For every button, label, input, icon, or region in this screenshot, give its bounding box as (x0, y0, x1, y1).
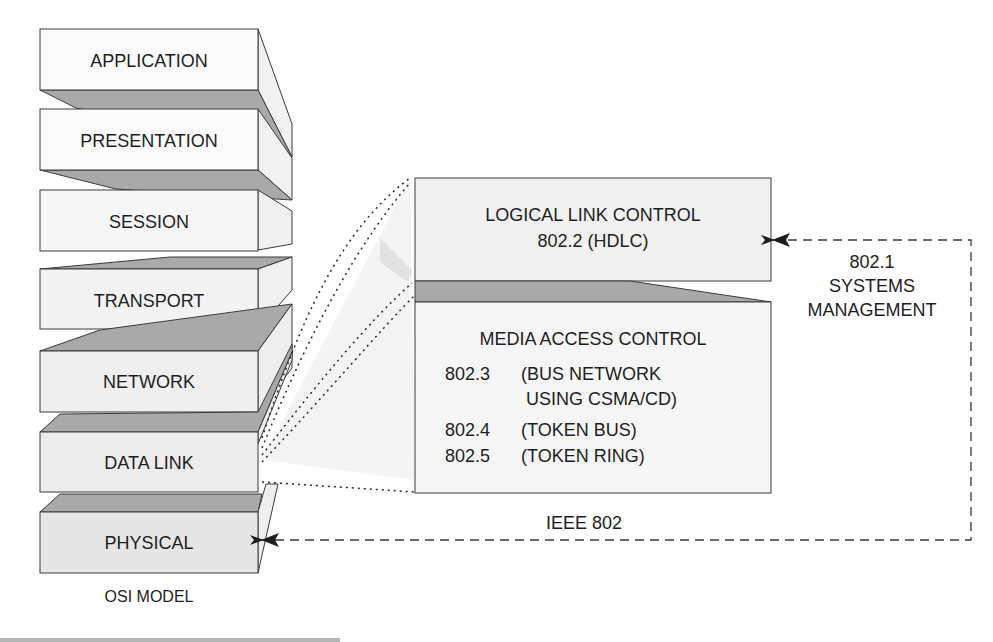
mac-entry-desc-8025: (TOKEN RING) (521, 446, 645, 466)
footer-bar (0, 638, 340, 642)
layer-label-application: APPLICATION (90, 51, 208, 71)
mac-entry-desc-8024: (TOKEN BUS) (521, 420, 637, 440)
systems-management-label: 802.1 SYSTEMS MANAGEMENT (807, 252, 936, 320)
mac-entry-desc-8023-line1: (BUS NETWORK (521, 364, 661, 384)
sysmgmt-line3: MANAGEMENT (807, 300, 936, 320)
layer-label-session: SESSION (109, 212, 189, 232)
sysmgmt-line1: 802.1 (849, 252, 894, 272)
osi-layer-physical[interactable] (40, 484, 278, 573)
sysmgmt-line2: SYSTEMS (829, 276, 915, 296)
mac-entry-code-8024: 802.4 (445, 420, 490, 440)
layer-label-network: NETWORK (103, 372, 195, 392)
mac-entry-desc-8023-line2: USING CSMA/CD) (526, 389, 677, 409)
ieee802-caption: IEEE 802 (546, 513, 622, 533)
mac-entry-code-8023: 802.3 (445, 364, 490, 384)
layer-label-data-link: DATA LINK (104, 453, 193, 473)
layer-label-transport: TRANSPORT (94, 291, 205, 311)
mac-entry-code-8025: 802.5 (445, 446, 490, 466)
llc-title: LOGICAL LINK CONTROL (485, 205, 700, 225)
layer-label-presentation: PRESENTATION (80, 131, 217, 151)
layer-label-physical: PHYSICAL (104, 533, 193, 553)
llc-subtitle: 802.2 (HDLC) (537, 231, 648, 251)
mac-title: MEDIA ACCESS CONTROL (479, 329, 706, 349)
osi-model-caption: OSI MODEL (105, 588, 194, 605)
arrow-left-icon-llc (772, 233, 790, 247)
osi-ieee802-diagram: APPLICATION PRESENTATION SESSION TRANSPO… (0, 0, 993, 642)
osi-layer-presentation[interactable] (40, 109, 292, 200)
